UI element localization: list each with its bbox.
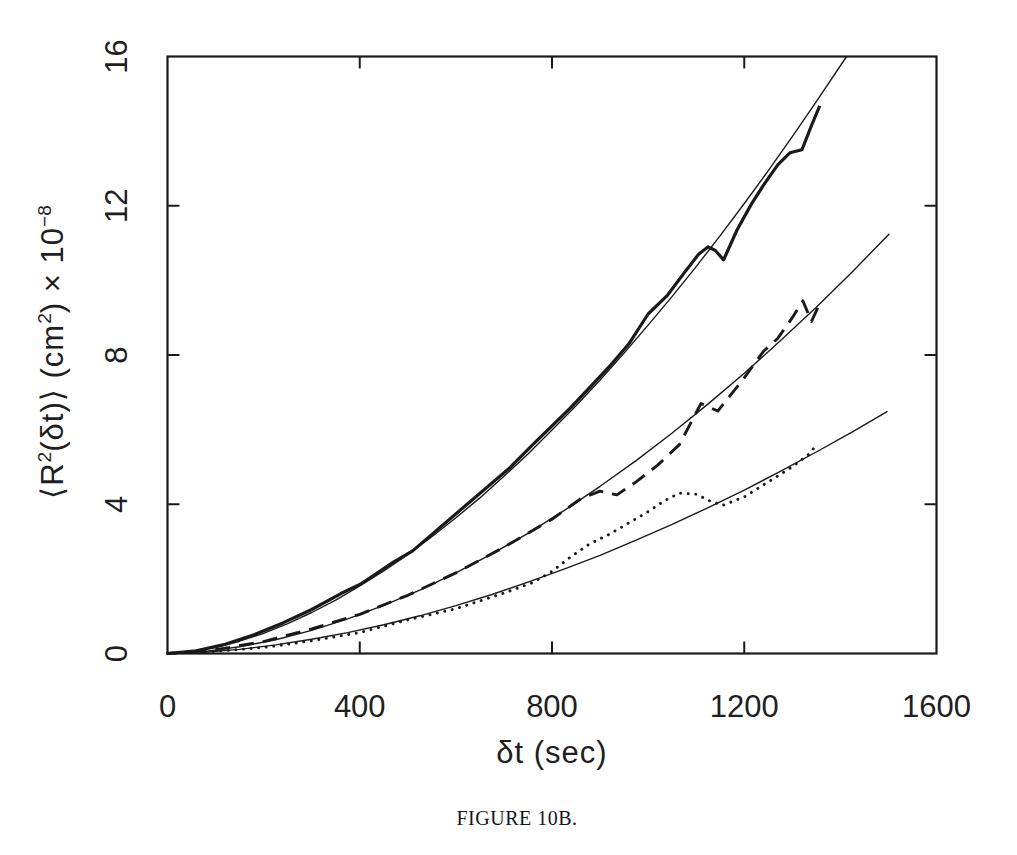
figure-page: 0400800120016000481216 ⟨R2(δt)⟩ (cm2) × … xyxy=(0,0,1017,855)
series-middle-fit-line xyxy=(168,234,890,654)
y-axis-label-text-mid: (δt)⟩ (cm xyxy=(35,324,70,452)
x-tick-label: 1200 xyxy=(710,689,779,724)
series-upper-data-curve xyxy=(168,106,820,654)
y-tick-label: 0 xyxy=(99,645,134,662)
y-tick-label: 16 xyxy=(99,39,134,73)
plot-frame xyxy=(168,57,937,654)
series-lower-fit-line xyxy=(168,411,888,653)
y-axis-label-sup-exp: −8 xyxy=(34,205,55,227)
y-axis-label-text: ⟨R xyxy=(35,462,70,498)
y-tick-label: 8 xyxy=(99,346,134,363)
x-axis-label: δt (sec) xyxy=(496,735,607,771)
y-tick-label: 4 xyxy=(99,496,134,513)
series-upper-fit-line xyxy=(168,57,847,654)
x-tick-label: 1600 xyxy=(902,689,971,724)
chart-svg: 0400800120016000481216 xyxy=(0,0,1017,855)
x-tick-label: 800 xyxy=(526,689,578,724)
y-axis-label-sup-2: 2 xyxy=(34,452,55,463)
figure-caption: FIGURE 10B. xyxy=(456,807,577,830)
x-tick-label: 400 xyxy=(334,689,386,724)
x-tick-label: 0 xyxy=(159,689,176,724)
series-middle-data-curve xyxy=(168,301,820,654)
y-axis-label: ⟨R2(δt)⟩ (cm2) × 10−8 xyxy=(34,205,71,499)
y-tick-label: 12 xyxy=(99,189,134,223)
y-axis-label-sup-cm2: 2 xyxy=(34,313,55,324)
y-axis-label-text-end: ) × 10 xyxy=(35,227,70,313)
series-lower-data-curve xyxy=(168,444,818,654)
